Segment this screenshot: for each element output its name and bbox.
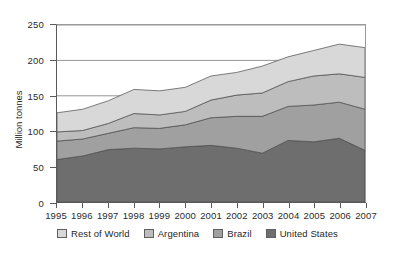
y-tick-label: 100 [28,126,44,137]
x-tick-mark [289,203,290,208]
y-tick-label: 250 [28,19,44,30]
x-tick-label: 1997 [97,210,119,221]
y-tick-label: 200 [28,54,44,65]
x-tick-label: 2005 [304,210,326,221]
y-tick-label: 150 [28,90,44,101]
x-tick-mark [108,203,109,208]
legend-item-rest-of-world[interactable]: Rest of World [57,228,130,239]
x-tick-label: 2000 [174,210,196,221]
y-axis-title: Million tonnes [13,70,24,170]
plot-area [56,24,366,203]
legend-item-united-states[interactable]: United States [266,228,338,239]
x-tick-mark [237,203,238,208]
x-tick-mark [366,203,367,208]
legend-swatch-icon [144,229,154,238]
stacked-area-plot [57,25,365,202]
x-tick-mark [134,203,135,208]
x-tick-mark [82,203,83,208]
legend-swatch-icon [57,229,67,238]
x-tick-mark [56,203,57,208]
x-tick-label: 1996 [71,210,93,221]
x-tick-label: 2006 [329,210,351,221]
x-tick-label: 2004 [278,210,300,221]
legend-swatch-icon [266,229,276,238]
legend-label: Argentina [158,228,200,239]
legend-label: Brazil [227,228,251,239]
chart-legend: Rest of WorldArgentinaBrazilUnited State… [0,228,395,239]
x-tick-mark [159,203,160,208]
x-tick-mark [314,203,315,208]
x-tick-label: 1999 [149,210,171,221]
x-tick-label: 1998 [123,210,145,221]
x-tick-label: 2002 [226,210,248,221]
x-tick-mark [263,203,264,208]
x-tick-mark [185,203,186,208]
x-tick-mark [211,203,212,208]
x-tick-label: 2003 [252,210,274,221]
legend-item-argentina[interactable]: Argentina [144,228,200,239]
chart-root: 050100150200250 Million tonnes 199519961… [0,0,395,254]
x-tick-mark [340,203,341,208]
legend-swatch-icon [213,229,223,238]
legend-item-brazil[interactable]: Brazil [213,228,251,239]
x-axis-tick-labels: 1995199619971998199920002001200220032004… [0,210,395,226]
legend-label: United States [280,228,338,239]
y-tick-label: 50 [33,162,44,173]
legend-label: Rest of World [71,228,130,239]
x-tick-label: 1995 [45,210,67,221]
x-tick-label: 2001 [200,210,222,221]
x-tick-label: 2007 [355,210,377,221]
